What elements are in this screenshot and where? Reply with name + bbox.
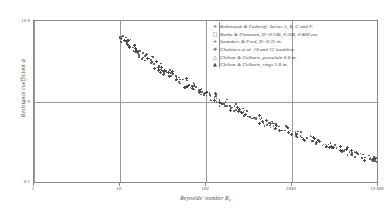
data-point (351, 152, 353, 154)
data-point (373, 158, 375, 160)
y-axis-label-text: Resistance coefficient (20, 64, 26, 117)
data-point (152, 56, 154, 58)
data-point (128, 45, 130, 47)
plus-marker: + (210, 39, 220, 44)
data-point (253, 117, 255, 119)
legend-item[interactable]: □Burke & Plumman, D=0·108, 0·308, 0·400 … (210, 31, 382, 39)
data-point (328, 144, 330, 146)
legend-item-label: Saunders & Ford, D=0·25 in. (220, 39, 282, 44)
data-point (193, 89, 195, 91)
x-axis-label-subscript: e (229, 197, 231, 202)
open-triangle-marker: △ (210, 55, 220, 60)
data-point (195, 86, 197, 88)
data-point (376, 161, 378, 163)
data-point (354, 156, 356, 158)
data-point (229, 109, 232, 112)
data-point (238, 108, 241, 111)
data-point (266, 124, 268, 126)
data-point (175, 75, 177, 77)
data-point (219, 105, 221, 107)
data-point (144, 60, 146, 62)
data-point (243, 111, 245, 113)
data-point (223, 103, 225, 105)
y-axis-label-symbol: ψ (20, 59, 26, 63)
data-point (170, 72, 172, 74)
y-tick-label: 10·0 (6, 18, 30, 23)
data-point (182, 79, 184, 81)
data-point (229, 105, 231, 107)
data-point (134, 44, 136, 46)
data-point (139, 50, 141, 52)
plus-marker: + (210, 24, 220, 29)
data-point (209, 94, 211, 96)
legend-item[interactable]: +Saunders & Ford, D=0·25 in. (210, 38, 382, 46)
data-point (284, 130, 286, 132)
data-point (226, 105, 228, 107)
data-point (341, 151, 343, 153)
data-point (130, 39, 132, 41)
data-point (138, 56, 140, 58)
data-point (357, 153, 359, 155)
y-tick-label: 0·1 (6, 179, 30, 184)
legend-item[interactable]: △Chilton & Colburn, porcelain 0·8 in. (210, 53, 382, 61)
legend-item[interactable]: #Chalmers et al. 10 and 12 leadshot. (210, 46, 382, 54)
data-point (175, 80, 177, 82)
data-point (141, 58, 143, 60)
data-point (246, 110, 248, 112)
x-tick-label: 1000 (286, 186, 296, 191)
data-point (372, 161, 374, 163)
x-tick-label: 100 (201, 186, 208, 191)
data-point (153, 63, 155, 65)
data-point (306, 137, 308, 139)
data-point (312, 140, 314, 142)
hash-marker: # (210, 47, 220, 52)
data-point (160, 63, 162, 65)
data-point (152, 61, 154, 63)
legend-item-label: Chilton & Colburn, porcelain 0·8 in. (220, 55, 297, 60)
data-point (168, 75, 170, 77)
data-point (233, 110, 235, 112)
data-point (261, 117, 263, 119)
data-point (155, 60, 158, 63)
data-point (138, 54, 140, 56)
figure-scatter-plot: 1 10 100 1000 10 000 10·0 1·0 0·1 Reynol… (0, 0, 389, 209)
data-point (226, 99, 228, 101)
data-point (375, 160, 377, 162)
filled-triangle-marker: ▲ (210, 62, 220, 67)
data-point (278, 126, 280, 128)
x-tick-label: 1 (32, 186, 34, 191)
data-point (287, 131, 290, 134)
legend-item[interactable]: ▲Chilton & Colburn, rings 1·0 in. (210, 61, 382, 69)
data-point (171, 70, 174, 73)
legend-item[interactable]: +Bohmstedt & Fedoroff, Series A, B, C an… (210, 23, 382, 31)
legend: +Bohmstedt & Fedoroff, Series A, B, C an… (210, 22, 382, 70)
data-point (258, 122, 261, 125)
data-point (270, 127, 272, 129)
data-point (120, 41, 122, 43)
data-point (121, 36, 123, 38)
data-point (325, 146, 327, 148)
data-point (275, 123, 277, 125)
data-point (216, 101, 218, 103)
data-point (234, 105, 236, 107)
data-point (145, 53, 148, 56)
legend-item-label: Bohmstedt & Fedoroff, Series A, B, C and… (220, 24, 313, 29)
y-tick-label: 1·0 (6, 99, 30, 104)
gridline-horizontal (34, 102, 377, 103)
data-point (243, 115, 245, 117)
y-axis-label: Resistance coefficient ψ (20, 13, 26, 163)
data-point (376, 157, 378, 159)
data-point (264, 125, 266, 127)
data-point (347, 154, 349, 156)
data-point (255, 118, 257, 120)
data-point (330, 142, 332, 144)
data-point (318, 140, 321, 143)
open-square-marker: □ (210, 32, 220, 37)
data-point (210, 96, 212, 98)
x-axis-label-text: Reynolds' number R (180, 195, 229, 201)
legend-item-label: Chilton & Colburn, rings 1·0 in. (220, 62, 288, 67)
data-point (303, 139, 306, 142)
data-point (297, 131, 299, 133)
data-point (163, 72, 165, 74)
data-point (336, 147, 338, 149)
